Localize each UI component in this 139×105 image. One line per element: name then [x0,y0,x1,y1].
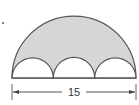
arrow-left-icon [13,90,19,94]
arrow-right-icon [129,90,135,94]
dimension-label: 15 [68,86,80,98]
marker-dot [2,22,4,24]
diagram-canvas: 15 [0,0,139,105]
